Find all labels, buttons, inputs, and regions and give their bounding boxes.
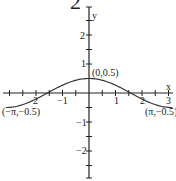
x-tick-label: −1 <box>57 95 68 106</box>
x-tick-label: 2 <box>33 95 38 106</box>
x-axis-label: x <box>166 81 171 92</box>
y-tick-label: −2 <box>76 145 87 156</box>
x-tick-label: 1 <box>114 95 119 106</box>
y-tick-label: −1 <box>76 117 87 128</box>
figure-number-partial: 2 <box>70 0 81 14</box>
y-tick-label: 1 <box>81 58 86 69</box>
x-tick-label: 2 <box>140 95 145 106</box>
annotation-max-point: (0,0.5) <box>92 67 119 79</box>
annotation-right-endpoint: (π,−0.5) <box>145 106 176 118</box>
y-axis-label: y <box>92 10 97 21</box>
cosine-graph: 2 x y 2 −1 1 2 3 2 1 −1 −2 (0,0.5) (−π,−… <box>0 0 176 181</box>
annotation-left-endpoint: (−π,−0.5) <box>2 106 40 118</box>
x-tick-label: 3 <box>166 95 171 106</box>
y-tick-label: 2 <box>80 30 85 41</box>
